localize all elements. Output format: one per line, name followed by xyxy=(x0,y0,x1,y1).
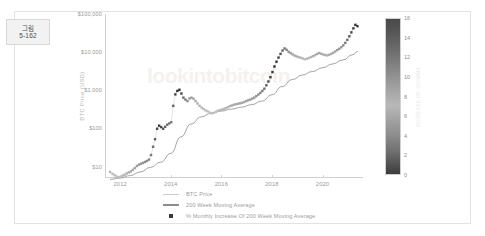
y-tick-label: $1,000 xyxy=(84,87,102,93)
scatter-point xyxy=(156,128,158,130)
colorbar-tick-label: 16 xyxy=(404,15,410,21)
scatter-point xyxy=(273,65,275,67)
scatter-point xyxy=(267,80,269,82)
figure-tag-line2: 5-162 xyxy=(19,32,37,39)
y-tick-label: $10 xyxy=(92,164,102,170)
scatter-point xyxy=(172,105,174,107)
scatter-point xyxy=(192,98,194,100)
scatter-point xyxy=(134,167,136,169)
scatter-point xyxy=(194,100,196,102)
scatter-point xyxy=(275,61,277,63)
y-tick-label: $100 xyxy=(89,125,102,131)
legend-item-200wma: 200 Week Moving Average xyxy=(160,200,360,210)
scatter-point xyxy=(180,92,182,94)
x-tick-label: 2016 xyxy=(215,181,228,187)
chart-legend: BTC Price 200 Week Moving Average % Mont… xyxy=(160,189,360,222)
colorbar-tick-label: 12 xyxy=(404,54,410,60)
x-tick-label: 2014 xyxy=(164,181,177,187)
y-axis-title: BTC Price (USD) xyxy=(79,71,85,120)
colorbar-tick-label: 4 xyxy=(404,133,407,139)
scatter-point xyxy=(344,42,346,44)
legend-key-line-icon xyxy=(160,204,182,205)
x-tick-label: 2018 xyxy=(265,181,278,187)
btc-price-line xyxy=(110,25,357,178)
figure-tag-line1: 그림 xyxy=(22,25,34,32)
y-tick-label: $100,000 xyxy=(78,11,102,17)
scatter-point xyxy=(279,53,281,55)
figure-page: 그림 5-162 lookintobitcoin BTC Price (USD)… xyxy=(0,0,485,236)
scatter-point xyxy=(164,126,166,128)
scatter-point xyxy=(356,25,358,27)
x-tick-label: 2020 xyxy=(316,181,329,187)
legend-item-monthly-increase: % Monthly Increase Of 200 Week Moving Av… xyxy=(160,211,360,221)
scatter-point xyxy=(277,56,279,58)
scatter-point xyxy=(269,76,271,78)
y-tick-label: $10,000 xyxy=(81,49,102,55)
scatter-point xyxy=(150,154,152,156)
legend-label: % Monthly Increase Of 200 Week Moving Av… xyxy=(186,213,315,219)
legend-key-line-icon xyxy=(160,194,182,195)
scatter-point xyxy=(352,27,354,29)
chart-plot: lookintobitcoin BTC Price (USD) $100,000… xyxy=(105,14,363,178)
scatter-point xyxy=(261,90,263,92)
colorbar-tick-label: 8 xyxy=(404,94,407,100)
figure-number-tag: 그림 5-162 xyxy=(6,19,50,45)
scatter-point xyxy=(342,44,344,46)
legend-label: BTC Price xyxy=(186,191,212,197)
chart-series-layer xyxy=(105,14,363,178)
scatter-point xyxy=(154,138,156,140)
scatter-point xyxy=(271,71,273,73)
x-tick-label: 2012 xyxy=(114,181,127,187)
scatter-point xyxy=(109,171,111,173)
plot-area: $100,000$10,000$1,000$100$10 20122014201… xyxy=(105,14,363,178)
scatter-point xyxy=(265,84,267,86)
legend-label: 200 Week Moving Average xyxy=(186,202,255,208)
scatter-point xyxy=(186,100,188,102)
legend-item-btc-price: BTC Price xyxy=(160,189,360,199)
scatter-point xyxy=(350,31,352,33)
scatter-point xyxy=(174,93,176,95)
scatter-point xyxy=(152,146,154,148)
colorbar-gradient: INCREASE OF 200WMA xyxy=(385,18,401,175)
scatter-point xyxy=(196,102,198,104)
scatter-point xyxy=(346,39,348,41)
colorbar: INCREASE OF 200WMA 0246810121416 xyxy=(385,18,401,175)
colorbar-tick-label: 6 xyxy=(404,113,407,119)
colorbar-tick-label: 10 xyxy=(404,74,410,80)
legend-key-square-icon xyxy=(160,214,182,218)
colorbar-tick-label: 14 xyxy=(404,35,410,41)
scatter-point xyxy=(348,35,350,37)
scatter-point xyxy=(148,158,150,160)
scatter-point xyxy=(281,49,283,51)
scatter-point xyxy=(263,87,265,89)
colorbar-tick-label: 0 xyxy=(404,172,407,178)
colorbar-tick-label: 2 xyxy=(404,152,407,158)
scatter-point xyxy=(170,121,172,123)
scatter-point xyxy=(178,89,180,91)
